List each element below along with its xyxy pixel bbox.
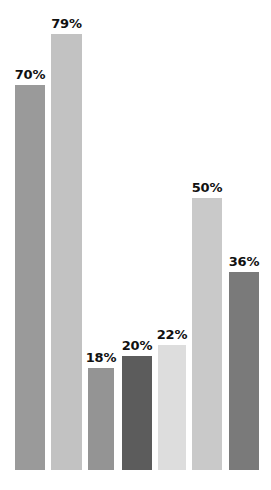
bar-group: 36% — [229, 272, 259, 470]
bar-group: 70% — [15, 85, 45, 470]
bar-group: 22% — [158, 345, 186, 470]
bar-group: 79% — [51, 34, 82, 470]
bar-value-label: 36% — [229, 255, 260, 268]
bar-value-label: 70% — [15, 68, 46, 81]
bar[interactable] — [122, 356, 152, 470]
bar[interactable] — [158, 345, 186, 470]
bar[interactable] — [15, 85, 45, 470]
bar[interactable] — [51, 34, 82, 470]
bar[interactable] — [88, 368, 114, 470]
bar-chart: 70% 79% 18% 20% 22% 50% 36% — [0, 0, 271, 490]
bar-value-label: 79% — [51, 17, 82, 30]
bar-value-label: 18% — [86, 351, 117, 364]
bar[interactable] — [192, 198, 222, 470]
bar-group: 18% — [88, 368, 114, 470]
bar-value-label: 50% — [192, 181, 223, 194]
bar-value-label: 22% — [157, 328, 188, 341]
plot-area: 70% 79% 18% 20% 22% 50% 36% — [0, 0, 271, 490]
bar-value-label: 20% — [122, 339, 153, 352]
bar-group: 50% — [192, 198, 222, 470]
bar-group: 20% — [122, 356, 152, 470]
bar[interactable] — [229, 272, 259, 470]
